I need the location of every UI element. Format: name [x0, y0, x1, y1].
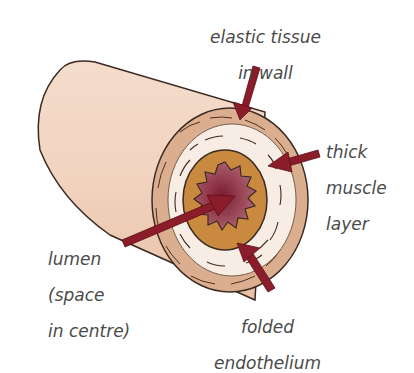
label-line: layer	[326, 215, 387, 233]
label-elastic-tissue: elastic tissue in wall	[210, 10, 321, 100]
label-line: folded	[214, 318, 321, 336]
label-lumen: lumen (space in centre)	[48, 232, 130, 358]
label-line: in centre)	[48, 322, 130, 340]
label-line: muscle	[326, 179, 387, 197]
label-line: endothelium	[214, 354, 321, 372]
label-line: elastic tissue	[210, 28, 321, 46]
label-muscle-layer: thick muscle layer	[326, 125, 387, 251]
label-line: thick	[326, 143, 387, 161]
label-line: in wall	[210, 64, 321, 82]
label-line: (space	[48, 286, 130, 304]
label-line: lumen	[48, 250, 130, 268]
label-endothelium: folded endothelium	[214, 300, 321, 373]
